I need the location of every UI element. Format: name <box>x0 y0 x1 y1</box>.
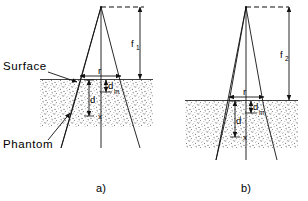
measurement-point-x-label-a: x <box>98 112 102 121</box>
depth-max-dm-label-b: d <box>253 101 258 112</box>
distance-f1-subscript: 1 <box>136 44 140 51</box>
depth-d-label-b: d <box>236 115 241 126</box>
field-radius-r-label-a: r <box>98 65 101 76</box>
depth-max-dm-subscript-a: m <box>114 88 119 95</box>
distance-f2-subscript: 2 <box>285 55 289 62</box>
figure-container: f 1 r d m d x a) <box>0 0 308 201</box>
beam-geometry-diagram: f 1 r d m d x a) <box>0 0 308 201</box>
panel-a-caption: a) <box>96 182 106 194</box>
distance-f1-label: f <box>131 38 134 49</box>
phantom-label: Phantom <box>3 138 53 150</box>
depth-d-label-a: d <box>90 94 95 105</box>
surface-label: Surface <box>3 60 47 72</box>
distance-f2-label: f <box>280 49 283 60</box>
measurement-point-x-label-b: x <box>243 133 247 142</box>
phantom-slab-b <box>185 100 298 148</box>
depth-max-dm-label-a: d <box>108 80 113 91</box>
field-radius-r-label-b: r <box>243 86 246 97</box>
panel-a: f 1 r d m d x a) <box>40 6 153 194</box>
depth-max-dm-subscript-b: m <box>259 109 264 116</box>
annotation-surface: Surface <box>3 60 77 82</box>
phantom-slab-a <box>40 79 153 127</box>
panel-b: f 2 r d m d x b) <box>185 6 298 194</box>
panel-b-caption: b) <box>241 182 251 194</box>
